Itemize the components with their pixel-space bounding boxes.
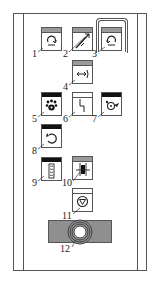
callout-12: 12	[60, 244, 70, 254]
callout-3: 3	[92, 49, 97, 59]
callout-6: 6	[63, 114, 68, 124]
callout-11: 11	[62, 211, 72, 221]
callout-8: 8	[32, 146, 37, 156]
callout-10: 10	[62, 178, 72, 188]
callout-1: 1	[32, 49, 37, 59]
callout-2: 2	[63, 49, 68, 59]
callout-4: 4	[63, 82, 68, 92]
callout-7: 7	[92, 114, 97, 124]
leader-lines	[0, 0, 158, 285]
callout-5: 5	[32, 114, 37, 124]
callout-9: 9	[32, 178, 37, 188]
